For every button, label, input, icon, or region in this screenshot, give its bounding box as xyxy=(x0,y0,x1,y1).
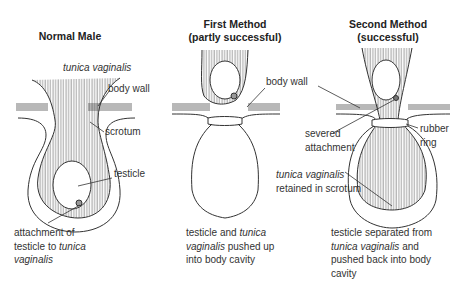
caption-normal-male: attachment of testicle to tunica vaginal… xyxy=(14,226,134,267)
caption-line: testicle and tunica xyxy=(186,226,296,240)
label-italic: tunica vaginalis xyxy=(276,169,344,180)
label-body-wall-first: body wall xyxy=(266,75,308,89)
label-line: rubber xyxy=(420,122,449,136)
label-testicle: testicle xyxy=(114,167,145,181)
caption-line: vaginalis xyxy=(14,253,134,267)
panel-title-first-method: First Method (partly successful) xyxy=(180,18,290,44)
label-scrotum: scrotum xyxy=(105,125,141,139)
caption-text: testicle and xyxy=(186,227,239,238)
label-rubber-ring: rubber ring xyxy=(420,122,449,149)
label-tunica-vaginalis: tunica vaginalis xyxy=(63,61,131,75)
caption-text: pushed up xyxy=(225,241,275,252)
label-tunica-text: tunica vaginalis xyxy=(63,62,131,73)
caption-italic: tunica xyxy=(59,241,86,252)
caption-text: and xyxy=(399,241,418,252)
caption-italic: tunica vaginalis xyxy=(331,241,399,252)
label-line: tunica vaginalis xyxy=(276,168,361,182)
caption-italic: vaginalis xyxy=(186,241,225,252)
caption-second-method: testicle separated from tunica vaginalis… xyxy=(331,226,461,280)
label-line: ring xyxy=(420,136,449,150)
normal-male-drawing xyxy=(16,78,135,232)
caption-text: testicle to xyxy=(14,241,59,252)
caption-line: pushed back into body xyxy=(331,253,461,267)
caption-line: cavity xyxy=(331,267,461,281)
first-method-drawing xyxy=(172,50,280,218)
label-line: severed xyxy=(305,127,354,141)
caption-italic: tunica xyxy=(239,227,266,238)
first-method-title-line1: First Method xyxy=(180,18,290,31)
label-line: retained in scrotum xyxy=(276,182,361,196)
label-severed-attachment: severed attachment xyxy=(305,127,354,154)
caption-line: testicle to tunica xyxy=(14,240,134,254)
caption-line: into body cavity xyxy=(186,253,296,267)
caption-line: attachment of xyxy=(14,226,134,240)
first-method-title-line2: (partly successful) xyxy=(180,31,290,44)
caption-italic: vaginalis xyxy=(14,254,53,265)
caption-line: vaginalis pushed up xyxy=(186,240,296,254)
second-method-title-line2: (successful) xyxy=(343,31,433,44)
label-line: attachment xyxy=(305,141,354,155)
panel-title-normal-male: Normal Male xyxy=(30,30,110,43)
caption-first-method: testicle and tunica vaginalis pushed up … xyxy=(186,226,296,267)
second-method-title-line1: Second Method xyxy=(343,18,433,31)
panel-title-second-method: Second Method (successful) xyxy=(343,18,433,44)
label-tunica-retained: tunica vaginalis retained in scrotum xyxy=(276,168,361,195)
caption-line: testicle separated from xyxy=(331,226,461,240)
label-body-wall: body wall xyxy=(108,82,150,96)
caption-line: tunica vaginalis and xyxy=(331,240,461,254)
